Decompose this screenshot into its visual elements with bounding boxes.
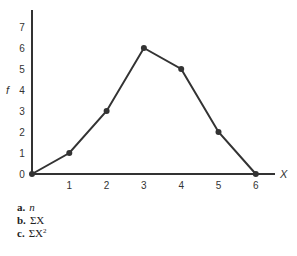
data-point	[216, 129, 222, 135]
x-tick-label: 5	[216, 180, 222, 191]
question-b-label: b.	[17, 214, 26, 226]
x-tick-label: 4	[178, 180, 184, 191]
question-a: a.n	[17, 201, 47, 214]
question-a-label: a.	[17, 201, 25, 213]
data-line	[32, 48, 256, 174]
y-tick-label: 0	[19, 169, 25, 180]
data-point	[66, 150, 72, 156]
question-list: a.n b.ΣX c.ΣX2	[17, 201, 47, 240]
data-point	[141, 45, 147, 51]
y-tick-label: 2	[19, 127, 25, 138]
data-point	[178, 66, 184, 72]
x-tick-label: 3	[141, 180, 147, 191]
data-point	[104, 108, 110, 114]
question-b-text: ΣX	[30, 214, 44, 226]
question-a-text: n	[29, 201, 35, 213]
y-axis-label: f	[6, 84, 10, 96]
question-c-label: c.	[17, 227, 25, 239]
y-tick-label: 3	[19, 106, 25, 117]
y-tick-label: 5	[19, 64, 25, 75]
x-axis-label: X	[279, 168, 288, 180]
data-point	[253, 171, 259, 177]
question-c-text: ΣX	[29, 227, 43, 239]
x-tick-label: 1	[67, 180, 73, 191]
y-tick-label: 6	[19, 43, 25, 54]
y-tick-label: 4	[19, 85, 25, 96]
question-b: b.ΣX	[17, 214, 47, 227]
question-c: c.ΣX2	[17, 227, 47, 240]
x-tick-label: 6	[253, 180, 259, 191]
data-point	[29, 171, 35, 177]
frequency-polygon-chart: 01234567123456Xf	[0, 0, 297, 200]
question-c-exponent: 2	[43, 227, 47, 235]
x-tick-label: 2	[104, 180, 110, 191]
y-tick-label: 1	[19, 148, 25, 159]
y-tick-label: 7	[19, 22, 25, 33]
